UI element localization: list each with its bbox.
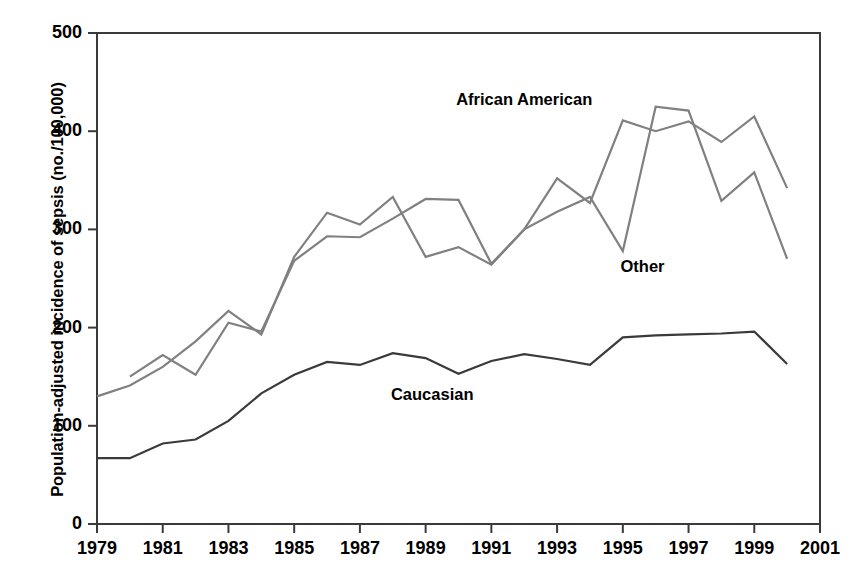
x-tick-label: 1999 <box>724 538 784 559</box>
series-label-caucasian: Caucasian <box>391 385 474 404</box>
x-tick-label: 1987 <box>330 538 390 559</box>
sepsis-incidence-chart: Population-adjusted incidence of sepsis … <box>0 0 852 579</box>
x-tick-label: 1995 <box>593 538 653 559</box>
y-tick-label: 0 <box>26 513 82 534</box>
x-tick-label: 1979 <box>67 538 127 559</box>
axes <box>88 33 820 533</box>
series-label-other: Other <box>621 257 665 276</box>
x-tick-label: 1983 <box>198 538 258 559</box>
y-tick-label: 400 <box>26 120 82 141</box>
x-tick-label: 1985 <box>264 538 324 559</box>
y-tick-label: 100 <box>26 415 82 436</box>
x-tick-label: 2001 <box>790 538 850 559</box>
y-tick-label: 300 <box>26 218 82 239</box>
x-tick-label: 1993 <box>527 538 587 559</box>
x-tick-label: 1981 <box>133 538 193 559</box>
series-label-african-american: African American <box>456 90 592 109</box>
y-tick-label: 200 <box>26 317 82 338</box>
data-series <box>97 107 787 459</box>
x-tick-label: 1991 <box>461 538 521 559</box>
x-tick-label: 1989 <box>396 538 456 559</box>
plot-area <box>0 0 852 579</box>
series-line-other <box>97 107 787 397</box>
y-tick-label: 500 <box>26 22 82 43</box>
x-tick-label: 1997 <box>659 538 719 559</box>
